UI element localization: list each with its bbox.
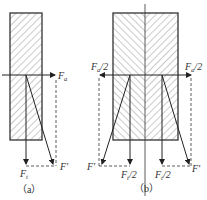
caption-b: （b）: [134, 183, 159, 194]
label-resultant-left: F': [86, 161, 96, 172]
label-fa-half-right: Fa/2: [184, 61, 202, 73]
label-fa: Fa: [57, 70, 67, 82]
caption-a: （a）: [17, 184, 41, 195]
gear-force-diagram: Fa Ft F' （a） Fa/2 Fa/2 Ft/2 Ft/2 F' F' （…: [0, 0, 207, 200]
panel-b: Fa/2 Fa/2 Ft/2 Ft/2 F' F' （b）: [86, 4, 202, 196]
label-resultant: F': [59, 161, 69, 172]
label-ft-half-left: Ft/2: [120, 169, 137, 181]
panel-a: Fa Ft F' （a）: [2, 13, 69, 195]
label-ft: Ft: [19, 168, 28, 180]
label-resultant-right: F': [191, 163, 201, 174]
herringbone-left-half: [113, 13, 145, 140]
label-ft-half-right: Ft/2: [154, 169, 171, 181]
label-fa-half-left: Fa/2: [90, 61, 108, 73]
